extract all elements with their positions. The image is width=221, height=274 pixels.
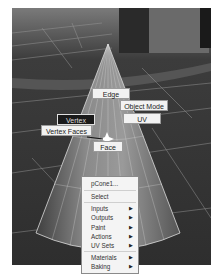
menu-item-select[interactable]: Select	[82, 192, 138, 201]
submenu-arrow-icon: ▶	[129, 262, 133, 271]
context-menu: pCone1... Select Inputs▶ Outputs▶ Paint▶…	[81, 176, 139, 274]
submenu-arrow-icon: ▶	[129, 223, 133, 232]
menu-item-label: UV Sets	[91, 242, 114, 249]
menu-item-uv-sets[interactable]: UV Sets▶	[82, 241, 138, 250]
marking-menu-vertex[interactable]: Vertex	[57, 114, 95, 125]
marking-menu-object-mode[interactable]: Object Mode	[120, 100, 168, 111]
menu-item-label: Actions	[91, 233, 112, 240]
menu-item-outputs[interactable]: Outputs▶	[82, 213, 138, 222]
menu-item-materials[interactable]: Materials▶	[82, 253, 138, 262]
marking-menu-edge[interactable]: Edge	[92, 88, 130, 99]
submenu-arrow-icon: ▶	[129, 213, 133, 222]
submenu-arrow-icon: ▶	[129, 241, 133, 250]
submenu-arrow-icon: ▶	[129, 204, 133, 213]
context-menu-object-title[interactable]: pCone1...	[82, 178, 138, 189]
submenu-arrow-icon: ▶	[129, 232, 133, 241]
menu-item-label: Select	[91, 193, 109, 200]
menu-item-label: Materials	[91, 254, 117, 261]
menu-item-label: Outputs	[91, 214, 113, 221]
menu-item-label: Baking	[91, 263, 110, 270]
menu-separator	[84, 202, 136, 203]
menu-separator	[84, 190, 136, 191]
submenu-arrow-icon: ▶	[129, 253, 133, 262]
menu-separator	[84, 251, 136, 252]
menu-item-label: Paint	[91, 224, 105, 231]
marking-menu-uv[interactable]: UV	[123, 113, 161, 124]
menu-item-inputs[interactable]: Inputs▶	[82, 204, 138, 213]
marking-menu-face[interactable]: Face	[93, 141, 123, 152]
menu-item-baking[interactable]: Baking▶	[82, 262, 138, 271]
menu-item-label: Inputs	[91, 205, 108, 212]
menu-item-actions[interactable]: Actions▶	[82, 232, 138, 241]
marking-menu-vertex-faces[interactable]: Vertex Faces	[41, 125, 92, 136]
menu-item-paint[interactable]: Paint▶	[82, 223, 138, 232]
